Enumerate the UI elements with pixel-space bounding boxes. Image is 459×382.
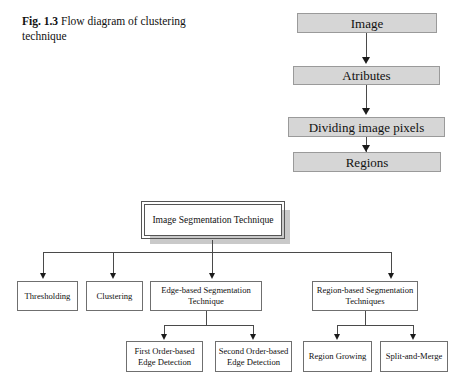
connector-attributes-to-dividing xyxy=(366,85,367,109)
connector-region-trunk xyxy=(365,311,366,325)
tree-node-region-growing: Region Growing xyxy=(303,341,372,372)
figure-root: Fig. 1.3 Flow diagram of clustering tech… xyxy=(0,0,459,382)
tree-node-split-and-merge-label: Split-and-Merge xyxy=(386,351,443,362)
arrowhead-edge-based xyxy=(209,273,215,279)
arrowhead-region-growing xyxy=(334,334,340,340)
arrowhead-attributes-to-dividing xyxy=(362,108,370,115)
tree-node-thresholding-label: Thresholding xyxy=(25,291,71,302)
tree-node-thresholding: Thresholding xyxy=(17,281,78,311)
tree-node-edge-based-segmentation-technique: Edge-based Segmentation Technique xyxy=(150,281,262,311)
arrowhead-second-order xyxy=(250,334,256,340)
tree-node-region-based-label: Region-based Segmentation Techniques xyxy=(315,285,415,307)
figure-caption: Fig. 1.3 Flow diagram of clustering tech… xyxy=(22,14,212,43)
tree-node-first-order-label: First Order-based Edge Detection xyxy=(129,346,200,368)
arrowhead-dividing-to-regions xyxy=(362,145,370,152)
connector-bus-to-clustering xyxy=(113,252,114,274)
connector-bus-to-thresholding xyxy=(43,252,44,274)
tree-node-edge-based-label: Edge-based Segmentation Technique xyxy=(153,285,259,307)
connector-bus-to-region-based xyxy=(391,252,392,274)
arrowhead-region-based xyxy=(388,273,394,279)
connector-level1-bus xyxy=(43,252,392,253)
connector-edge-bus xyxy=(164,325,254,326)
arrowhead-first-order xyxy=(161,334,167,340)
tree-node-clustering-label: Clustering xyxy=(97,291,133,302)
figure-caption-label: Fig. 1.3 xyxy=(22,15,58,27)
flow-step-dividing-image-pixels: Dividing image pixels xyxy=(288,117,445,137)
tree-node-first-order-based-edge-detection: First Order-based Edge Detection xyxy=(126,341,203,372)
tree-node-second-order-label: Second Order-based Edge Detection xyxy=(218,346,289,368)
flow-step-regions: Regions xyxy=(293,152,441,172)
connector-edge-trunk xyxy=(206,311,207,325)
flow-step-attributes: Atributes xyxy=(293,66,440,85)
tree-node-region-based-segmentation-techniques: Region-based Segmentation Techniques xyxy=(312,281,418,311)
flow-step-image: Image xyxy=(297,13,437,33)
arrowhead-split-and-merge xyxy=(410,334,416,340)
connector-region-bus xyxy=(337,325,414,326)
flow-step-regions-label: Regions xyxy=(346,155,389,170)
tree-node-split-and-merge: Split-and-Merge xyxy=(380,341,448,372)
connector-bus-to-edge-based xyxy=(212,252,213,274)
connector-image-to-attributes xyxy=(366,33,367,58)
tree-root-label: Image Segmentation Technique xyxy=(152,214,273,226)
flow-step-attributes-label: Atributes xyxy=(342,68,390,83)
tree-node-clustering: Clustering xyxy=(86,281,143,311)
tree-node-region-growing-label: Region Growing xyxy=(309,351,367,362)
arrowhead-thresholding xyxy=(40,273,46,279)
flow-step-dividing-image-pixels-label: Dividing image pixels xyxy=(309,120,425,135)
arrowhead-clustering xyxy=(110,273,116,279)
tree-root-image-segmentation-technique: Image Segmentation Technique xyxy=(144,204,282,236)
arrowhead-image-to-attributes xyxy=(362,57,370,64)
flow-step-image-label: Image xyxy=(351,16,383,31)
tree-node-second-order-based-edge-detection: Second Order-based Edge Detection xyxy=(215,341,292,372)
